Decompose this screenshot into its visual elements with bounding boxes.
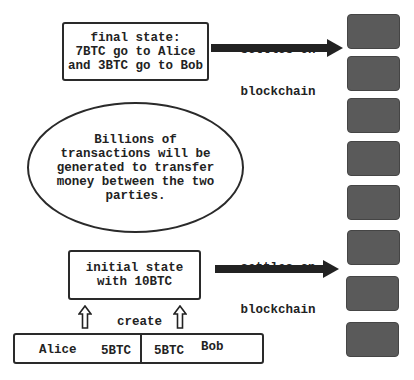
bottom-arrow-label-line-2: blockchain <box>228 303 328 317</box>
initial-state-line-2: with 10BTC <box>97 275 172 289</box>
ellipse-line-4: money between the two <box>57 175 215 189</box>
top-arrow-label: settles on blockchain <box>228 15 328 113</box>
blockchain-block <box>347 141 400 176</box>
parties-divider <box>140 335 142 362</box>
final-state-line-1: final state: <box>90 31 180 45</box>
blockchain-block <box>346 276 399 311</box>
alice-name: Alice <box>39 343 77 357</box>
billions-transactions-ellipse: Billions of transactions will be generat… <box>27 102 244 233</box>
bob-name: Bob <box>201 340 224 354</box>
top-arrow-label-line-2: blockchain <box>228 85 328 99</box>
final-state-line-2: 7BTC go to Alice <box>75 45 195 59</box>
initial-state-box: initial state with 10BTC <box>68 250 201 300</box>
blockchain-block <box>346 322 399 357</box>
ellipse-line-1: Billions of <box>57 133 215 147</box>
parties-bar: Alice 5BTC 5BTC Bob <box>13 333 264 364</box>
final-state-line-3: and 3BTC go to Bob <box>68 59 203 73</box>
create-label: create <box>117 315 162 329</box>
ellipse-line-5: parties. <box>57 189 215 203</box>
blockchain-block <box>347 185 400 220</box>
bottom-settle-arrow-icon <box>215 259 345 279</box>
alice-amount: 5BTC <box>101 344 131 358</box>
alice-up-arrow-icon <box>78 305 92 329</box>
initial-state-line-1: initial state <box>86 261 184 275</box>
ellipse-line-3: generated to transfer <box>57 161 215 175</box>
blockchain-block <box>347 14 400 49</box>
blockchain-block <box>347 98 400 133</box>
bob-up-arrow-icon <box>173 305 187 329</box>
ellipse-line-2: transactions will be <box>57 147 215 161</box>
final-state-box: final state: 7BTC go to Alice and 3BTC g… <box>62 22 209 81</box>
bob-amount: 5BTC <box>154 344 184 358</box>
top-settle-arrow-icon <box>211 38 346 58</box>
blockchain-block <box>347 56 400 91</box>
bottom-arrow-label: settles on blockchain <box>228 233 328 331</box>
blockchain-block <box>347 230 400 265</box>
